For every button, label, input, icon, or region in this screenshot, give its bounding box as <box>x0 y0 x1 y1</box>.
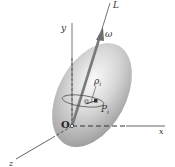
rigid-body <box>36 30 149 161</box>
x-axis-label: x <box>159 127 164 136</box>
y-axis-label: y <box>60 23 67 33</box>
origin-point <box>70 124 73 127</box>
omega-arrow-head-icon <box>96 27 104 41</box>
z-axis-label: z <box>8 159 14 167</box>
omega-label: ω <box>105 29 113 39</box>
z-axis-line <box>16 138 52 159</box>
origin-label: O <box>61 119 70 130</box>
particle-p-marker <box>94 99 98 103</box>
rotation-axis-label: L <box>112 0 119 10</box>
rigid-body-rotation-diagram: y x z O L ω ρi Pi <box>0 0 175 167</box>
